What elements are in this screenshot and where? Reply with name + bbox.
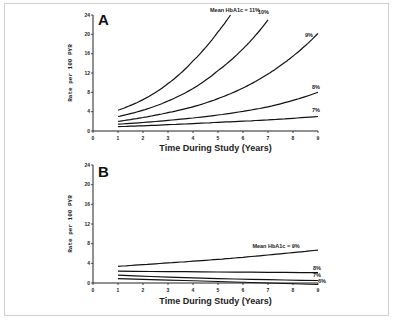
series-label: 10%	[258, 9, 269, 15]
x-tick-label: 2	[142, 287, 145, 293]
x-tick-label: 9	[317, 135, 320, 141]
y-tick-label: 24	[84, 162, 90, 168]
panel-label: B	[98, 163, 109, 180]
y-tick-label: 16	[84, 50, 90, 56]
x-tick-label: 8	[292, 135, 295, 141]
x-axis-label: Time During Study (Years)	[159, 296, 271, 306]
y-tick-label: 20	[84, 31, 90, 37]
series-line-8pct	[118, 271, 318, 273]
series-line-10pct	[118, 20, 268, 117]
x-tick-label: 8	[292, 287, 295, 293]
series-label: Mean HbA1c = 9%	[252, 243, 299, 249]
series-label: 6%	[318, 278, 326, 284]
series-label: Mean HbA1c = 11%	[210, 7, 260, 13]
x-tick-label: 4	[192, 287, 195, 293]
x-tick-label: 1	[117, 287, 120, 293]
x-axis-label: Time During Study (Years)	[159, 143, 271, 153]
x-tick-label: 5	[217, 287, 220, 293]
x-tick-label: 1	[117, 135, 120, 141]
x-tick-label: 5	[217, 135, 220, 141]
y-tick-label: 4	[87, 260, 90, 266]
y-axis-label: Rate per 100 PYR	[67, 44, 74, 102]
series-line-9pct	[118, 250, 318, 266]
y-tick-label: 8	[87, 89, 90, 95]
series-label: 8%	[313, 265, 321, 271]
x-tick-label: 0	[92, 287, 95, 293]
panel-label: A	[98, 11, 109, 28]
x-tick-label: 3	[167, 287, 170, 293]
y-tick-label: 8	[87, 240, 90, 246]
y-tick-label: 12	[84, 70, 90, 76]
y-axis-label: Rate per 100 PYR	[67, 195, 74, 253]
x-tick-label: 4	[192, 135, 195, 141]
y-tick-label: 12	[84, 221, 90, 227]
x-tick-label: 6	[242, 287, 245, 293]
series-label: 7%	[312, 107, 320, 113]
x-tick-label: 0	[92, 135, 95, 141]
y-tick-label: 0	[87, 128, 90, 134]
y-tick-label: 4	[87, 108, 90, 114]
x-tick-label: 7	[267, 287, 270, 293]
series-label: 9%	[305, 32, 313, 38]
y-tick-label: 24	[84, 12, 90, 18]
x-tick-label: 9	[317, 287, 320, 293]
x-tick-label: 3	[167, 135, 170, 141]
series-label: 8%	[312, 84, 320, 90]
x-tick-label: 2	[142, 135, 145, 141]
x-tick-label: 7	[267, 135, 270, 141]
series-line-11pct	[118, 15, 231, 110]
y-tick-label: 0	[87, 280, 90, 286]
chart-canvas: 048121620240123456789Time During Study (…	[0, 0, 394, 327]
y-tick-label: 20	[84, 181, 90, 187]
x-tick-label: 6	[242, 135, 245, 141]
y-tick-label: 16	[84, 201, 90, 207]
